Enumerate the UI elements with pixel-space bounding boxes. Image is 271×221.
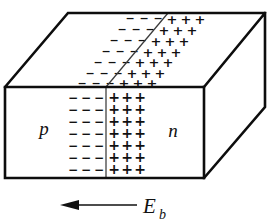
svg-text:+: + xyxy=(121,161,133,177)
pn-junction-drawing: −−− −−− −−− −−− −−− −−− −−− +++ +++ +++ … xyxy=(0,0,271,221)
front-face-negative-charges: −−− −−− −−− −−− −−− −−− −−− xyxy=(68,91,104,177)
front-face-positive-charges: +++ +++ +++ +++ +++ +++ +++ xyxy=(108,89,146,177)
field-label-symbol: E xyxy=(142,194,156,218)
label-p-region: p xyxy=(37,118,49,139)
label-n-region: n xyxy=(168,120,178,141)
svg-text:−: − xyxy=(94,163,104,177)
field-arrow-head xyxy=(60,200,79,210)
svg-text:+: + xyxy=(108,161,120,177)
svg-text:−: − xyxy=(81,163,91,177)
svg-text:−: − xyxy=(68,163,78,177)
field-label-subscript: b xyxy=(159,207,166,221)
pn-junction-figure: −−− −−− −−− −−− −−− −−− −−− +++ +++ +++ … xyxy=(0,0,271,221)
svg-text:+: + xyxy=(134,161,146,177)
